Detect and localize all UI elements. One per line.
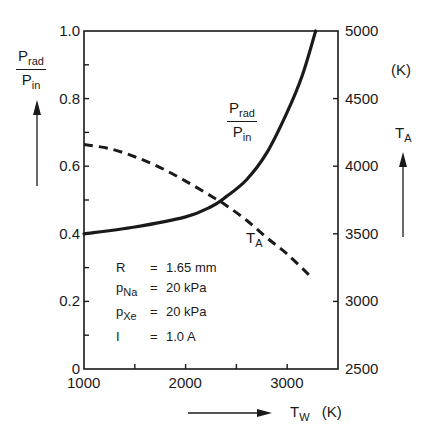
equals-sign: = bbox=[150, 258, 166, 278]
parameter-symbol: I bbox=[116, 327, 150, 347]
right-axis-label-main: T bbox=[395, 124, 404, 141]
parameter-value: 20 kPa bbox=[166, 278, 206, 303]
prad-pin-curve-label: Prad Pin bbox=[227, 100, 257, 143]
tick-label: 3500 bbox=[345, 226, 378, 241]
x-axis-arrow bbox=[188, 409, 272, 417]
x-axis-label-main: T bbox=[290, 403, 299, 420]
left-axis-num-sub: rad bbox=[28, 55, 44, 67]
right-axis-label: TA bbox=[395, 125, 412, 144]
parameter-legend: R=1.65 mmpNa=20 kPapXe=20 kPaI=1.0 A bbox=[116, 258, 217, 346]
tick-label: 0.8 bbox=[40, 91, 80, 106]
parameter-row: pXe=20 kPa bbox=[116, 302, 217, 327]
tick-label: 4500 bbox=[345, 91, 378, 106]
tick-label: 5000 bbox=[345, 23, 378, 38]
ta-curve-label: TA bbox=[246, 230, 263, 249]
parameter-value: 1.65 mm bbox=[166, 258, 217, 278]
parameter-symbol: R bbox=[116, 258, 150, 278]
tick-label: 3000 bbox=[345, 293, 378, 308]
parameter-value: 20 kPa bbox=[166, 302, 206, 327]
tick-label: 3000 bbox=[270, 375, 303, 390]
left-axis-den-sub: in bbox=[32, 79, 41, 91]
tick-label: 1.0 bbox=[40, 23, 80, 38]
parameter-row: pNa=20 kPa bbox=[116, 278, 217, 303]
right-axis-label-sub: A bbox=[404, 132, 411, 144]
x-axis-label: TW (K) bbox=[290, 404, 342, 423]
curve-label-num-sub: rad bbox=[239, 107, 255, 119]
curve-label-den: P bbox=[233, 123, 243, 140]
tick-label: 2500 bbox=[345, 361, 378, 376]
x-axis-label-sub: W bbox=[299, 411, 309, 423]
chart-canvas bbox=[0, 0, 428, 447]
tick-label: 0.2 bbox=[40, 293, 80, 308]
right-axis-unit: (K) bbox=[391, 62, 411, 77]
curve-label-num: P bbox=[229, 99, 239, 116]
tick-label: 2000 bbox=[169, 375, 202, 390]
tick-label: 1000 bbox=[67, 375, 100, 390]
left-axis-num: P bbox=[18, 47, 28, 64]
left-axis-den: P bbox=[22, 71, 32, 88]
tick-label: 0.6 bbox=[40, 158, 80, 173]
curve-label-den-sub: in bbox=[243, 131, 252, 143]
parameter-symbol: pNa bbox=[116, 278, 150, 303]
parameter-value: 1.0 A bbox=[166, 327, 196, 347]
parameter-row: R=1.65 mm bbox=[116, 258, 217, 278]
equals-sign: = bbox=[150, 327, 166, 347]
x-axis-unit: (K) bbox=[322, 403, 342, 420]
ta-curve-label-main: T bbox=[246, 229, 255, 246]
parameter-symbol: pXe bbox=[116, 302, 150, 327]
tick-label: 4000 bbox=[345, 158, 378, 173]
equals-sign: = bbox=[150, 302, 166, 327]
equals-sign: = bbox=[150, 278, 166, 303]
prad-pin-curve bbox=[84, 31, 316, 234]
tick-label: 0.4 bbox=[40, 226, 80, 241]
ta-curve-label-sub: A bbox=[255, 237, 262, 249]
right-axis-arrow bbox=[399, 152, 407, 237]
left-axis-label: Prad Pin bbox=[16, 48, 46, 91]
parameter-row: I=1.0 A bbox=[116, 327, 217, 347]
